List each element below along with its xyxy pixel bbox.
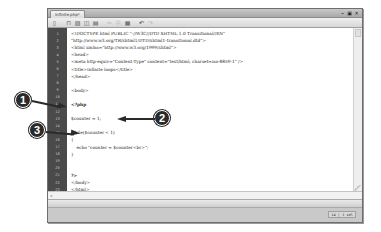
line-number: 21 [48, 173, 67, 177]
output-panel-strip [48, 199, 362, 208]
paste-icon[interactable]: ▦ [124, 19, 131, 26]
new-document-icon[interactable]: ▯ [51, 19, 58, 26]
code-line: 9<body> [48, 87, 353, 94]
code-line: 18} [48, 151, 353, 158]
line-text: <body> [67, 88, 89, 93]
line-number: 19 [48, 159, 67, 163]
callout-2-arrow [125, 118, 155, 120]
code-lines: 1<!DOCTYPE html PUBLIC "-//W3C//DTD XHTM… [48, 30, 353, 191]
line-text: { [67, 137, 74, 142]
callout-2-arrowhead [117, 116, 126, 122]
callout-2: 2 [154, 110, 170, 126]
line-text: </body> [67, 180, 90, 185]
line-number: 3 [48, 46, 67, 50]
code-line: 13$counter = 1; [48, 115, 353, 122]
line-text: <title>Infinite loops</title> [67, 67, 133, 72]
tab-infinite-php[interactable]: infinite.php* [50, 10, 85, 18]
line-text: ?> [67, 173, 77, 178]
line-number: 16 [48, 138, 67, 142]
save-all-icon[interactable]: ◫ [83, 19, 90, 26]
line-text: "http://www.w3.org/TR/xhtml1/DTD/xhtml1-… [67, 38, 206, 43]
code-line: 2"http://www.w3.org/TR/xhtml1/DTD/xhtml1… [48, 37, 353, 44]
code-editor[interactable]: 1<!DOCTYPE html PUBLIC "-//W3C//DTD XHTM… [48, 28, 353, 191]
code-line: 7</head> [48, 73, 353, 80]
line-number: 4 [48, 53, 67, 57]
line-number: 22 [48, 181, 67, 185]
line-text: <meta http-equiv="Content-Type" content=… [67, 59, 243, 64]
code-line: 12 [48, 108, 353, 115]
code-line: 21?> [48, 172, 353, 179]
window-controls: – ▣ ✕ [340, 10, 359, 16]
code-line: 3<html xmlns="http://www.w3.org/1999/xht… [48, 44, 353, 51]
code-line: 15while($counter < 1) [48, 129, 353, 136]
toolbar: ▯ ⊓ ▨ ◫ ▤ ✂ ⎘ ▦ ↶ ↷ [48, 18, 362, 28]
code-line: 11<?php [48, 101, 353, 108]
line-number: 20 [48, 166, 67, 170]
line-text: <html xmlns="http://www.w3.org/1999/xhtm… [67, 45, 176, 50]
line-text: </head> [67, 74, 90, 79]
code-line: 8 [48, 80, 353, 87]
cut-icon[interactable]: ✂ [106, 19, 113, 26]
code-line: 22</body> [48, 179, 353, 186]
close-icon[interactable]: ✕ [354, 10, 359, 16]
code-line: 10 [48, 94, 353, 101]
code-line: 17 echo "counter = $counter<br>"; [48, 144, 353, 151]
line-number: 5 [48, 60, 67, 64]
undo-icon[interactable]: ↶ [138, 19, 145, 26]
code-line: 6<title>Infinite loops</title> [48, 65, 353, 72]
code-line: 5<meta http-equiv="Content-Type" content… [48, 58, 353, 65]
cursor-position: 14 | 1 sel [328, 211, 356, 218]
line-number: 13 [48, 117, 67, 121]
open-icon[interactable]: ⊓ [65, 19, 72, 26]
horizontal-scrollbar[interactable]: ◂ [48, 191, 362, 199]
line-number: 6 [48, 67, 67, 71]
line-number: 18 [48, 152, 67, 156]
code-line: 19 [48, 158, 353, 165]
save-icon[interactable]: ▨ [74, 19, 81, 26]
line-number: 8 [48, 81, 67, 85]
line-number: 10 [48, 95, 67, 99]
line-text: echo "counter = $counter<br>"; [67, 145, 148, 150]
minimize-icon[interactable]: – [340, 10, 345, 16]
code-line: 1<!DOCTYPE html PUBLIC "-//W3C//DTD XHTM… [48, 30, 353, 37]
line-number: 9 [48, 88, 67, 92]
scroll-left-icon[interactable]: ◂ [50, 192, 52, 199]
line-number: 17 [48, 145, 67, 149]
callout-1: 1 [15, 92, 31, 108]
line-text: <?php [67, 102, 86, 107]
callout-3: 3 [29, 122, 45, 138]
line-number: 1 [48, 32, 67, 36]
line-text: <head> [67, 52, 89, 57]
status-bar: 14 | 1 sel [48, 208, 362, 222]
copy-icon[interactable]: ⎘ [115, 19, 122, 26]
line-text: <!DOCTYPE html PUBLIC "-//W3C//DTD XHTML… [67, 31, 225, 36]
title-bar: infinite.php* – ▣ ✕ [48, 9, 362, 18]
callout-3-arrowhead [71, 130, 80, 137]
line-number: 2 [48, 39, 67, 43]
code-line: 20 [48, 165, 353, 172]
vertical-scrollbar[interactable] [353, 28, 362, 191]
redo-icon[interactable]: ↷ [147, 19, 154, 26]
code-line: 14 [48, 122, 353, 129]
print-icon[interactable]: ▤ [92, 19, 99, 26]
line-text: $counter = 1; [67, 116, 101, 121]
scrollbar-thumb[interactable] [355, 29, 361, 37]
line-number: 7 [48, 74, 67, 78]
restore-icon[interactable]: ▣ [347, 10, 352, 16]
line-number: 14 [48, 124, 67, 128]
code-line: 16{ [48, 136, 353, 143]
editor-window: infinite.php* – ▣ ✕ ▯ ⊓ ▨ ◫ ▤ ✂ ⎘ ▦ ↶ ↷ … [47, 8, 363, 223]
line-number: 12 [48, 110, 67, 114]
line-text: } [67, 152, 74, 157]
code-line: 4<head> [48, 51, 353, 58]
